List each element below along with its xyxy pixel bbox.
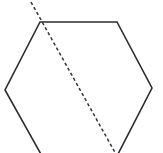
figure-canvas xyxy=(0,0,163,153)
dashed-diagonal-line xyxy=(31,2,117,153)
hexagon-outline xyxy=(5,22,152,153)
geometry-diagram xyxy=(0,0,163,153)
